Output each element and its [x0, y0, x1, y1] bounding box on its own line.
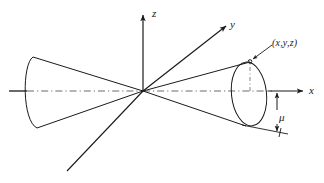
right-cone-generator-upper — [143, 62, 250, 91]
right-cone-generator-lower — [143, 91, 246, 126]
z-axis-label: z — [152, 8, 156, 19]
y-axis-line — [143, 26, 226, 91]
point-leader-line — [253, 45, 272, 59]
left-cone-cap-far-arc-hidden — [33, 57, 40, 128]
diagram-svg — [0, 0, 324, 183]
point-coordinate-label: (x,y,z) — [272, 38, 297, 48]
left-cone-cap-arc — [25, 57, 37, 128]
right-cone-cap-ellipse — [228, 60, 269, 127]
x-axis-label: x — [309, 85, 314, 96]
figure-canvas: z y x (x,y,z) μ — [0, 0, 324, 183]
left-cone-generator-upper — [33, 57, 143, 91]
y-axis-label: y — [230, 19, 235, 30]
mu-label: μ — [279, 112, 285, 123]
y-axis-negative-line — [67, 91, 143, 171]
right-cone — [143, 60, 270, 127]
left-cone — [25, 57, 143, 128]
left-cone-generator-lower — [37, 91, 143, 128]
